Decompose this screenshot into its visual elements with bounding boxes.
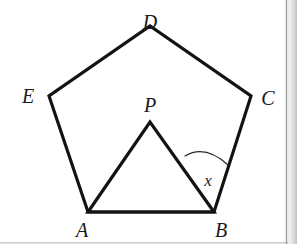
triangle-APB-outline xyxy=(88,122,214,212)
vertex-label-A: A xyxy=(76,220,88,240)
scan-edge-right-line xyxy=(286,0,287,246)
vertex-label-E: E xyxy=(22,86,34,106)
vertex-label-B: B xyxy=(215,220,227,240)
geometry-figure xyxy=(0,0,297,252)
pentagon-outline xyxy=(49,26,251,212)
vertex-label-C: C xyxy=(261,88,274,108)
angle-label-x: x xyxy=(204,172,212,189)
figure-strokes xyxy=(49,26,251,212)
diagram-page: D E C P A B x xyxy=(0,0,297,252)
angle-arc-icon xyxy=(185,152,228,165)
scan-edge-bottom-fill xyxy=(0,244,297,252)
vertex-label-D: D xyxy=(143,12,157,32)
vertex-label-P: P xyxy=(144,95,156,115)
